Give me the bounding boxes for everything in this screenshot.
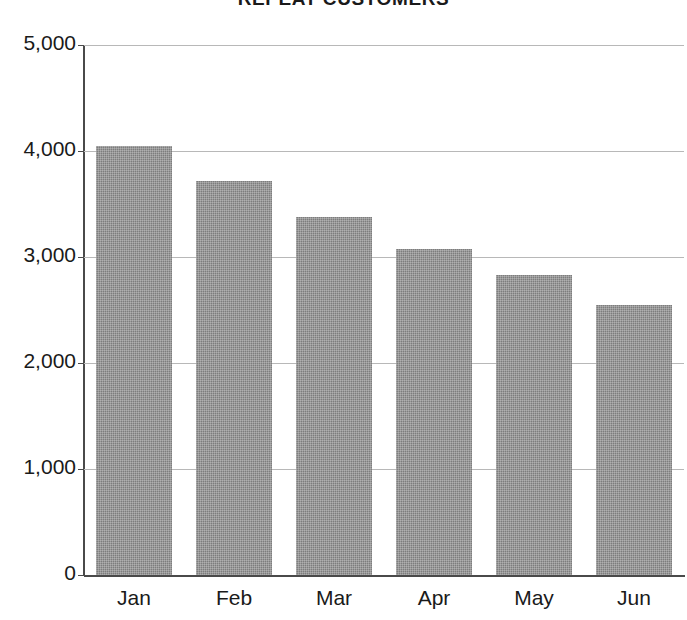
gridline [84, 469, 684, 470]
y-tick-label: 4,000 [0, 137, 76, 161]
x-tick-label: Feb [184, 586, 284, 610]
bar-mar [296, 217, 372, 575]
y-tick-label: 3,000 [0, 243, 76, 267]
gridline [84, 151, 684, 152]
y-tick-label: 1,000 [0, 455, 76, 479]
bar-apr [396, 249, 472, 575]
y-tick-label: 0 [0, 561, 76, 585]
gridline [84, 575, 684, 576]
y-tick-label: 5,000 [0, 31, 76, 55]
x-tick-label: Jun [584, 586, 684, 610]
x-tick-label: Jan [84, 586, 184, 610]
x-tick-label: Mar [284, 586, 384, 610]
gridline [84, 363, 684, 364]
bar-jan [96, 146, 172, 575]
chart-title: REPEAT CUSTOMERS [0, 0, 687, 10]
x-tick-label: Apr [384, 586, 484, 610]
gridline [84, 45, 684, 46]
y-tick-label: 2,000 [0, 349, 76, 373]
plot-area [84, 45, 684, 575]
bar-chart: REPEAT CUSTOMERS 01,0002,0003,0004,0005,… [0, 0, 687, 620]
gridline [84, 257, 684, 258]
bar-feb [196, 181, 272, 575]
bar-jun [596, 305, 672, 575]
x-tick-label: May [484, 586, 584, 610]
bar-may [496, 275, 572, 575]
